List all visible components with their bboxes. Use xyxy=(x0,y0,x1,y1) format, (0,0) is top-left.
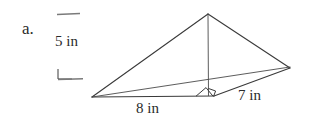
base-dimension-label: 8 in xyxy=(136,101,159,116)
right-angle-rule-icon xyxy=(58,79,83,80)
height-tick-icon xyxy=(57,14,80,15)
edge-altitude-vertical xyxy=(208,14,209,96)
edge-base-eight-inches xyxy=(92,96,214,97)
side-dimension-label: 7 in xyxy=(238,88,261,103)
edge-apex-to-right-vertex xyxy=(208,14,290,68)
geometry-figure-container: a. 5 in 8 in 7 in xyxy=(0,0,311,122)
height-dimension-label: 5 in xyxy=(55,34,78,49)
edge-apex-to-left-vertex xyxy=(92,14,208,97)
right-angle-mark-icon xyxy=(58,69,72,79)
item-label: a. xyxy=(22,20,34,37)
